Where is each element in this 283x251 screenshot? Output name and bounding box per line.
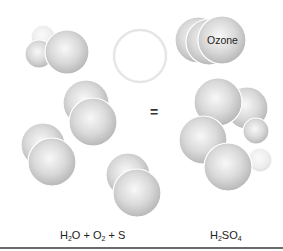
atom-sphere — [243, 118, 269, 144]
reactants-part-2: O + O2 — [72, 229, 106, 241]
reactants-label: H2O + O2 + S — [60, 229, 125, 242]
molecule-oxygen-pair-2 — [21, 123, 76, 186]
molecule-oxygen-pair-3 — [106, 153, 161, 217]
atom-sphere — [45, 30, 89, 74]
bottom-divider — [0, 247, 283, 249]
reactants-part-3: + S — [105, 229, 125, 241]
molecule-sulfuric-acid — [179, 78, 272, 191]
atom-sphere — [113, 169, 161, 217]
atom-sphere — [204, 143, 252, 191]
molecule-empty-circle — [114, 30, 166, 82]
molecule-illustration — [0, 0, 283, 251]
chemical-equation-diagram: = Ozone H2O + O2 + S H2SO4 — [0, 0, 283, 251]
atom-sphere — [69, 98, 117, 146]
reactants-part-1: H2 — [60, 229, 72, 241]
equals-sign: = — [150, 104, 158, 120]
molecule-water — [25, 25, 89, 74]
product-label: H2SO4 — [210, 229, 242, 242]
atom-sphere — [114, 30, 166, 82]
atom-sphere — [28, 138, 76, 186]
ozone-label: Ozone — [207, 34, 238, 46]
molecule-oxygen-pair-1 — [63, 80, 117, 146]
